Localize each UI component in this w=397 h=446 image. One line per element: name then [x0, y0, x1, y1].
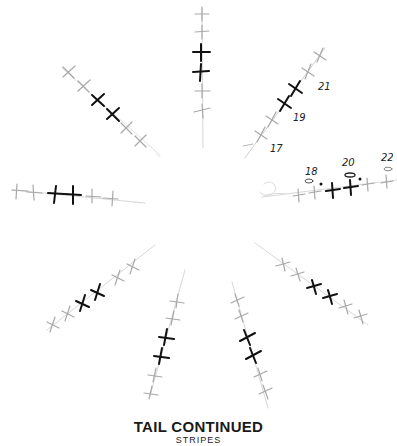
label-18: 18	[305, 166, 318, 177]
spoke-bottom-right	[231, 282, 272, 408]
diagram-subtitle: STRIPES	[0, 435, 397, 445]
radial-stripes-drawing: 21 19 17 18 20 22	[0, 0, 397, 446]
label-19: 19	[293, 112, 306, 123]
spoke-upper-right	[243, 48, 326, 158]
spoke-right	[260, 167, 397, 202]
label-17: 17	[270, 143, 283, 154]
label-22: 22	[381, 152, 394, 163]
spoke-left	[12, 184, 145, 206]
spoke-lower-right	[255, 243, 368, 325]
label-21: 21	[318, 81, 331, 92]
diagram-title: TAIL CONTINUED	[0, 418, 397, 435]
label-20: 20	[342, 157, 355, 168]
spoke-bottom-left	[144, 270, 185, 399]
stripes-diagram: 21 19 17 18 20 22 TAIL CONTINUED STRIPES	[0, 0, 397, 446]
spoke-top	[193, 7, 210, 148]
spoke-upper-left	[62, 66, 160, 157]
spoke-lower-left	[47, 245, 155, 332]
